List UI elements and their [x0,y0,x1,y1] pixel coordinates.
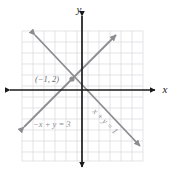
line-rising-label: −x + y = 3 [33,119,71,129]
y-axis-label: y [76,3,82,15]
graph-figure: y x (−1, 2) −x + y = 3 x + y = 1 [0,0,182,173]
x-axis-label: x [162,83,168,95]
coordinate-plane: y x (−1, 2) −x + y = 3 x + y = 1 [0,0,182,173]
intersection-point [69,76,74,81]
intersection-point-label: (−1, 2) [35,74,59,84]
